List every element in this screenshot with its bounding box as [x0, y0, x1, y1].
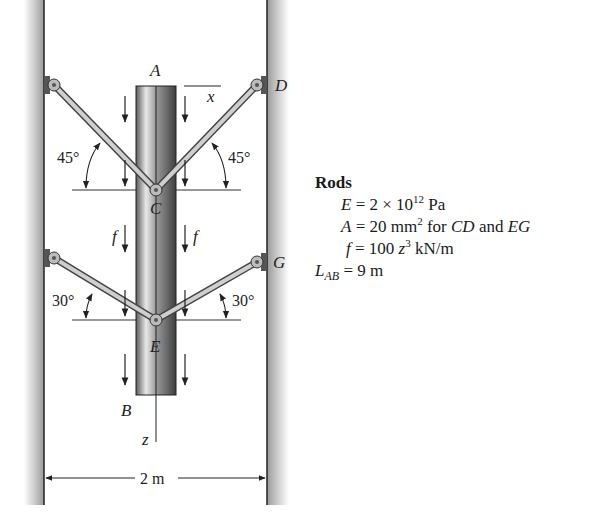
angle-label-upper-left: 45° [57, 149, 79, 166]
angle-arc-upper-right [212, 143, 226, 188]
left-wall [24, 0, 44, 505]
pin-support-g [251, 253, 267, 271]
load-unit: kN/m [411, 239, 454, 258]
area-and-text: and [475, 217, 508, 236]
pin-e [150, 314, 162, 326]
angle-arc-lower-right [220, 294, 226, 318]
modulus-row: E = 2 × 1012 Pa [315, 194, 530, 216]
panel-title: Rods [315, 172, 530, 194]
angle-arc-lower-left [86, 294, 92, 318]
modulus-symbol: E [341, 195, 351, 214]
area-for-text: for [423, 217, 451, 236]
label-f-right: f [193, 227, 200, 246]
pin-support-lower-left [44, 249, 60, 267]
area-row: A = 20 mm2 for CD and EG [315, 216, 530, 238]
length-subscript: AB [324, 269, 339, 283]
label-a: A [149, 61, 161, 80]
label-d: D [274, 76, 288, 95]
label-c: C [150, 199, 162, 218]
angle-arc-upper-left [86, 143, 100, 188]
angle-label-upper-right: 45° [228, 149, 250, 166]
label-e: E [149, 337, 161, 356]
area-value: = 20 mm [351, 217, 417, 236]
label-z-axis: z [141, 430, 149, 449]
area-symbol: A [341, 217, 351, 236]
angle-label-lower-right: 30° [232, 292, 254, 309]
area-rod-cd: CD [451, 217, 475, 236]
modulus-unit: Pa [424, 195, 445, 214]
load-value: = 100 [351, 239, 399, 258]
angle-label-lower-left: 30° [52, 292, 74, 309]
area-rod-eg: EG [508, 217, 531, 236]
modulus-value: = 2 × 10 [351, 195, 413, 214]
label-x-axis: x [206, 87, 215, 106]
label-b: B [121, 401, 132, 420]
pin-c [150, 184, 162, 196]
modulus-exponent: 12 [413, 193, 424, 205]
properties-panel: Rods E = 2 × 1012 Pa A = 20 mm2 for CD a… [315, 172, 530, 282]
label-f-left: f [112, 227, 119, 246]
length-value: = 9 m [339, 261, 383, 280]
load-row: f = 100 z3 kN/m [315, 238, 530, 260]
length-row: LAB = 9 m [315, 260, 530, 282]
label-g: G [273, 253, 285, 272]
dimension-label: 2 m [140, 470, 165, 487]
